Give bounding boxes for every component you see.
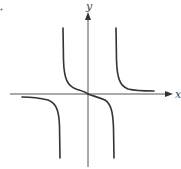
curve-right-branch bbox=[116, 28, 154, 91]
x-axis-label: x bbox=[175, 88, 181, 101]
curve-middle-upper bbox=[63, 28, 88, 94]
curve-left-branch bbox=[22, 97, 60, 158]
corner-mark bbox=[1, 9, 3, 11]
x-axis-arrow-icon bbox=[165, 91, 173, 97]
curve-middle-lower bbox=[88, 94, 114, 158]
y-axis-arrow-icon bbox=[85, 12, 91, 20]
y-axis-label: y bbox=[85, 0, 93, 13]
function-graph: x y bbox=[0, 0, 181, 169]
